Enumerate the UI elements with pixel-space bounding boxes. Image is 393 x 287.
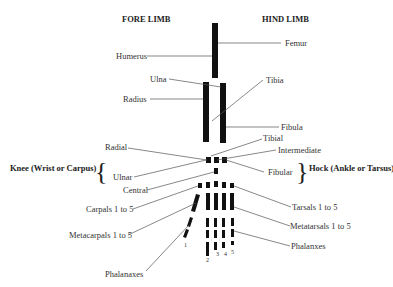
knee-group-label: Knee (Wrist or Carpus)	[10, 163, 97, 173]
label-femur: Femur	[285, 38, 307, 48]
fore-limb-heading: FORE LIMB	[122, 14, 171, 24]
label-ulnar: Ulnar	[113, 172, 133, 182]
digit-number-5: 5	[231, 249, 234, 255]
phalanx-3b-bone	[214, 230, 217, 238]
label-metacarpals: Metacarpals 1 to 5	[69, 230, 132, 240]
digit-number-3: 3	[216, 251, 219, 257]
digit-number-4: 4	[224, 251, 227, 257]
phalanx-4b-bone	[222, 230, 225, 238]
phalanx-3a-bone	[214, 218, 217, 227]
phalanx-4a-bone	[222, 218, 225, 227]
label-tibia: Tibia	[266, 75, 284, 85]
label-radius: Radius	[123, 94, 147, 104]
phalanx-5a-bone	[231, 218, 234, 226]
limb-skeleton-diagram: FORE LIMB HIND LIMB	[0, 0, 393, 287]
label-radial: Radial	[105, 142, 128, 152]
label-tibial: Tibial	[263, 133, 284, 143]
label-fibular: Fibular	[268, 167, 293, 177]
digit-number-2: 2	[206, 257, 209, 263]
phalanx-2b-bone	[206, 230, 209, 238]
hock-group-label: Hock (Ankle or Tarsus)	[309, 163, 393, 173]
phalanx-4c-bone	[222, 242, 225, 248]
label-ulna: Ulna	[150, 74, 167, 84]
phalanx-2c-bone	[206, 242, 209, 256]
carpal-1-bone	[198, 183, 202, 188]
carpal-5-bone	[230, 183, 234, 188]
central-carpal-bone	[214, 168, 218, 174]
label-fore-phalanxes: Phalanaxes	[105, 269, 143, 279]
phalanx-1a-bone	[187, 217, 193, 227]
carpal-3-bone	[214, 181, 218, 187]
label-central: Central	[123, 185, 149, 195]
femur-humerus-bone	[212, 23, 218, 78]
bones	[183, 23, 234, 256]
metacarpal-5-bone	[230, 193, 234, 210]
carpal-2-bone	[206, 182, 210, 188]
tibia-fibula-bone	[220, 83, 226, 143]
metacarpal-3-bone	[214, 193, 218, 210]
label-intermediate: Intermediate	[278, 145, 321, 155]
phalanx-3c-bone	[214, 242, 217, 250]
label-tarsals: Tarsals 1 to 5	[292, 202, 337, 212]
radius-ulna-bone	[203, 82, 209, 142]
phalanx-5c-bone	[231, 241, 234, 245]
knee-brace-icon: {	[95, 157, 107, 186]
label-humerus: Humerus	[116, 51, 147, 61]
label-hind-phalanxes: Phalanxes	[291, 241, 325, 251]
label-metatarsals: Metatarsals 1 to 5	[290, 221, 351, 231]
metacarpal-4-bone	[222, 193, 226, 210]
metacarpal-2-bone	[206, 193, 210, 210]
phalanx-2a-bone	[206, 218, 209, 227]
carpal-4-bone	[222, 182, 226, 188]
phalanx-5b-bone	[231, 229, 234, 237]
label-fibula: Fibula	[281, 122, 303, 132]
digit-number-1: 1	[184, 242, 187, 248]
hind-limb-heading: HIND LIMB	[262, 14, 309, 24]
label-carpals: Carpals 1 to 5	[86, 204, 133, 214]
hock-brace-icon: }	[296, 157, 308, 186]
